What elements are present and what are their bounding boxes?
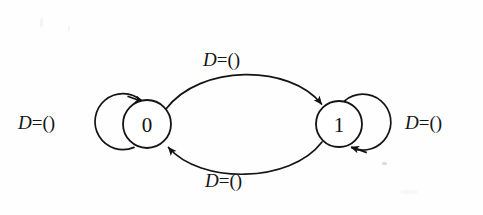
label-right-value: ()	[429, 112, 442, 133]
transition-label-self-loop-1: D=()	[405, 112, 442, 134]
state-0-label: 0	[142, 113, 153, 137]
label-top-eq: =	[217, 49, 228, 70]
label-right-var: D	[405, 112, 419, 133]
label-left-var: D	[18, 112, 32, 133]
label-left-eq: =	[32, 112, 43, 133]
state-node-1[interactable]: 1	[316, 101, 362, 147]
state-1-label: 1	[334, 113, 345, 137]
label-top-var: D	[203, 49, 217, 70]
arc-0-to-1-path	[166, 75, 322, 109]
state-diagram-canvas: 0 1 D=() D=() D=() D=()	[0, 0, 483, 215]
transition-0-to-1[interactable]	[166, 75, 322, 109]
label-bottom-var: D	[205, 170, 219, 191]
arc-1-to-0-path	[169, 142, 323, 174]
label-right-eq: =	[419, 112, 430, 133]
transition-label-self-loop-0: D=()	[18, 112, 55, 134]
state-node-0[interactable]: 0	[123, 100, 171, 148]
label-left-value: ()	[42, 112, 55, 133]
label-bottom-value: ()	[229, 170, 242, 191]
transition-label-0-to-1: D=()	[203, 49, 240, 71]
transition-label-1-to-0: D=()	[205, 170, 242, 192]
label-bottom-eq: =	[219, 170, 230, 191]
transition-1-to-0[interactable]	[169, 142, 323, 174]
label-top-value: ()	[227, 49, 240, 70]
